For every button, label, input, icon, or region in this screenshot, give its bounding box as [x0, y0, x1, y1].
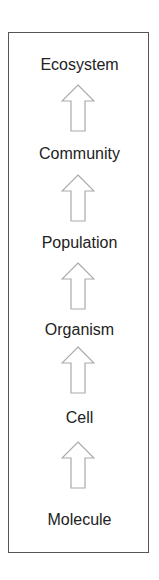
level-molecule: Molecule [0, 511, 159, 529]
up-arrow-icon [61, 346, 95, 394]
level-organism: Organism [0, 321, 159, 339]
up-arrow-icon [61, 174, 95, 222]
up-arrow-icon [61, 441, 95, 489]
up-arrow-icon [61, 262, 95, 310]
level-cell: Cell [0, 409, 159, 427]
level-community: Community [0, 145, 159, 163]
up-arrow-icon [61, 84, 95, 132]
level-population: Population [0, 234, 159, 252]
level-ecosystem: Ecosystem [0, 56, 159, 74]
